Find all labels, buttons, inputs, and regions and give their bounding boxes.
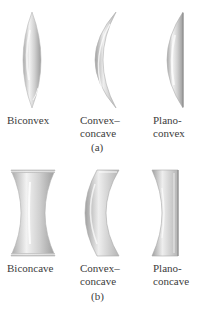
- part-b-caption: (b): [91, 290, 104, 303]
- plano-convex-lens-icon: [161, 10, 187, 110]
- plano-concave-label: Plano- concave: [153, 262, 189, 288]
- plano-convex-label: Plano- convex: [153, 114, 185, 140]
- plano-concave-lens-icon: [150, 168, 182, 258]
- convex-concave-a-label: Convex– concave: [80, 114, 120, 140]
- convex-concave-lens-b-icon: [79, 168, 125, 258]
- biconcave-lens-icon: [9, 168, 57, 258]
- part-a-caption: (a): [91, 141, 103, 154]
- convex-concave-lens-a-icon: [82, 10, 118, 110]
- biconvex-label: Biconvex: [7, 114, 49, 127]
- convex-concave-b-label: Convex– concave: [80, 262, 120, 288]
- biconcave-label: Biconcave: [7, 262, 53, 275]
- biconvex-lens-icon: [18, 10, 46, 110]
